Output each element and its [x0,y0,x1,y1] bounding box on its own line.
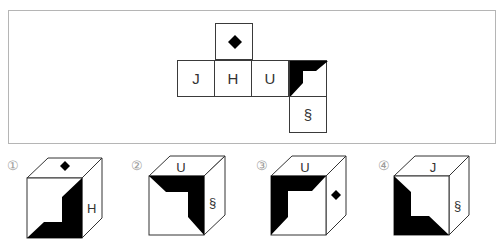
option-number-4: ④ [378,158,390,173]
side-label: H [87,201,96,216]
net-face-j: J [177,60,215,97]
face-label: H [228,70,239,87]
top-label: U [176,160,185,175]
net-face-h: H [214,60,252,97]
option-cube-4[interactable]: J § [391,155,475,241]
net-face-pattern [289,60,327,97]
top-label: J [430,160,437,175]
option-cube-2[interactable]: U § [146,155,230,241]
option-cube-3[interactable]: U [268,155,352,241]
net-face-section: § [289,96,327,133]
top-label: U [300,160,309,175]
net-face-top [215,23,253,60]
face-label: U [265,70,276,87]
side-label: § [454,198,461,213]
face-label: J [192,70,200,87]
option-number-2: ② [131,158,143,173]
face-label: § [304,106,312,123]
option-number-3: ③ [256,158,268,173]
diamond-icon [216,24,254,61]
option-cube-1[interactable]: H [24,155,108,241]
side-label: § [209,195,216,210]
black-corner-pattern-icon [290,61,328,98]
option-number-1: ① [7,158,19,173]
net-face-u: U [251,60,289,97]
